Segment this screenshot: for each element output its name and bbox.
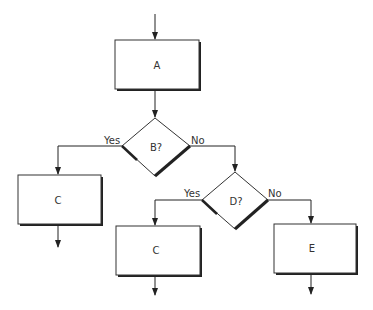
decision-diamond-b: B? — [122, 118, 190, 176]
diamond-d-label: D? — [229, 196, 242, 207]
box-e-label: E — [309, 243, 315, 254]
process-box-e: E — [274, 224, 358, 275]
edge-label-b-no: No — [191, 135, 205, 146]
process-box-c-left: C — [18, 175, 103, 226]
edge-label-d-yes: Yes — [183, 188, 200, 199]
process-box-c-middle: C — [116, 226, 202, 277]
edge-label-b-yes: Yes — [103, 135, 120, 146]
box-c-middle-label: C — [153, 245, 160, 256]
flowchart: A B? Yes No C D? Yes No C — [0, 0, 373, 310]
process-box-a: A — [115, 40, 201, 91]
decision-diamond-d: D? — [202, 172, 268, 229]
box-c-left-label: C — [55, 195, 62, 206]
diamond-b-label: B? — [150, 142, 162, 153]
box-a-label: A — [154, 60, 161, 71]
edge-label-d-no: No — [268, 188, 282, 199]
